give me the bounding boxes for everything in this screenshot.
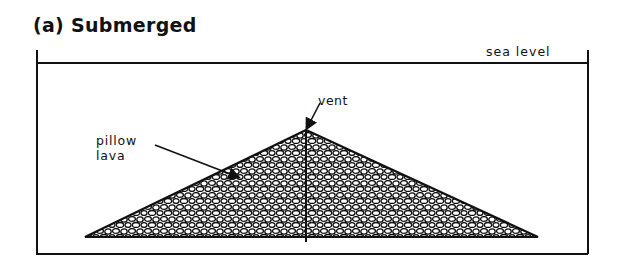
pillow-lava-cone [85,130,538,237]
pillow-lava-label-line1: pillow [96,133,137,148]
pillow-lava-label: pillow lava [96,133,137,163]
pillow-lava-arrow [155,145,238,177]
sea-level-label: sea level [486,44,551,59]
vent-label: vent [318,93,348,108]
submerged-volcano-diagram [0,0,618,259]
pillow-lava-label-line2: lava [96,148,137,163]
